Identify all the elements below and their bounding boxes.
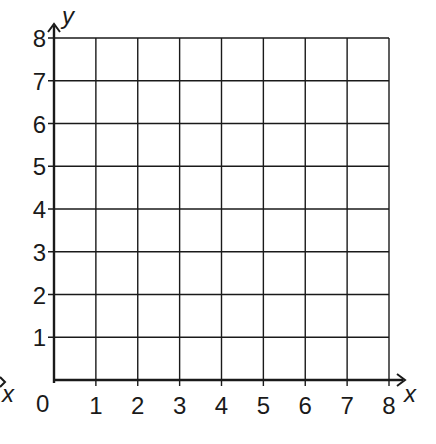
y-tick-label: 4: [33, 196, 46, 223]
tick-labels: 0 x y x 1234567812345678: [1, 2, 417, 419]
y-tick-label: 3: [33, 239, 46, 266]
y-tick-label: 2: [33, 282, 46, 309]
x-tick-label: 3: [173, 392, 186, 419]
x-tick-label: 1: [89, 392, 102, 419]
y-tick-label: 7: [33, 68, 46, 95]
left-edge-x-label: x: [1, 380, 15, 407]
axes: [0, 24, 405, 387]
x-tick-label: 5: [257, 392, 270, 419]
y-tick-label: 6: [33, 111, 46, 138]
x-tick-label: 7: [340, 392, 353, 419]
x-axis-label: x: [403, 380, 417, 407]
x-tick-label: 2: [131, 392, 144, 419]
coordinate-plane: 0 x y x 1234567812345678: [0, 0, 436, 444]
origin-label: 0: [36, 390, 49, 417]
y-tick-label: 1: [33, 324, 46, 351]
x-tick-label: 4: [215, 392, 228, 419]
y-tick-label: 5: [33, 153, 46, 180]
grid-lines: [48, 38, 389, 386]
y-axis-label: y: [60, 2, 76, 29]
x-tick-label: 6: [299, 392, 312, 419]
y-tick-label: 8: [33, 25, 46, 52]
x-tick-label: 8: [382, 392, 395, 419]
